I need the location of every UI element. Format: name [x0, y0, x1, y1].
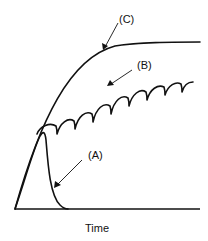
curve-a [15, 133, 68, 209]
arrow-a [54, 160, 82, 188]
curve-c [15, 42, 200, 209]
label-a: (A) [88, 150, 103, 161]
label-b: (B) [137, 60, 152, 71]
arrow-b [107, 70, 132, 86]
chart-plot [0, 0, 208, 241]
curve-b [37, 82, 193, 134]
label-c: (C) [119, 14, 134, 25]
x-axis-label: Time [85, 223, 109, 234]
